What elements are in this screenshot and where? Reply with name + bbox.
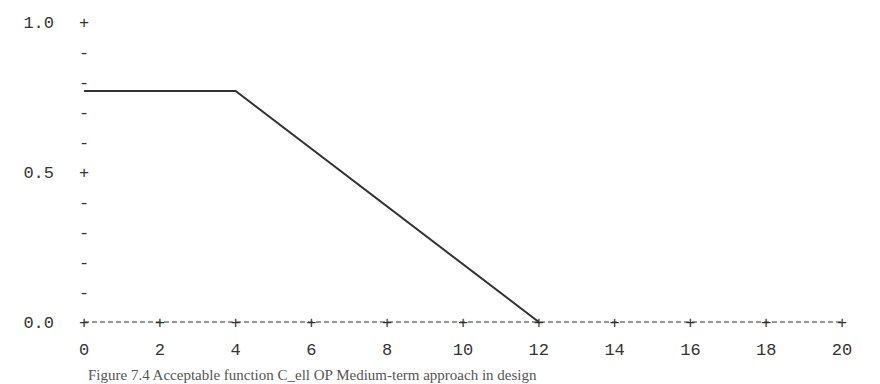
x-major-tick: + xyxy=(609,314,619,333)
x-tick-label: 4 xyxy=(230,341,240,360)
x-major-tick: + xyxy=(382,314,392,333)
x-tick-label: 8 xyxy=(382,341,392,360)
y-minor-tick: - xyxy=(79,254,89,273)
x-tick-label: 14 xyxy=(604,341,624,360)
x-axis: +0+2+4+6+8+10+12+14+16+18+20 xyxy=(79,314,852,360)
y-major-tick: + xyxy=(79,14,89,33)
y-axis: ----+----+0.00.51.0 xyxy=(23,14,89,333)
x-tick-label: 20 xyxy=(832,341,852,360)
y-minor-tick: - xyxy=(79,44,89,63)
x-tick-label: 18 xyxy=(756,341,776,360)
y-minor-tick: - xyxy=(79,224,89,243)
x-tick-label: 16 xyxy=(680,341,700,360)
y-tick-label: 0.0 xyxy=(23,314,54,333)
y-minor-tick: - xyxy=(79,284,89,303)
x-major-tick: + xyxy=(79,314,89,333)
x-tick-label: 2 xyxy=(155,341,165,360)
x-major-tick: + xyxy=(155,314,165,333)
y-minor-tick: - xyxy=(79,134,89,153)
x-tick-label: 0 xyxy=(79,341,89,360)
x-major-tick: + xyxy=(685,314,695,333)
x-tick-label: 12 xyxy=(529,341,549,360)
x-tick-label: 10 xyxy=(453,341,473,360)
y-tick-label: 0.5 xyxy=(23,164,54,183)
x-major-tick: + xyxy=(230,314,240,333)
x-major-tick: + xyxy=(306,314,316,333)
x-tick-label: 6 xyxy=(306,341,316,360)
figure-caption: Figure 7.4 Acceptable function C_ell OP … xyxy=(88,367,848,384)
x-major-tick: + xyxy=(837,314,847,333)
x-major-tick: + xyxy=(534,314,544,333)
x-major-tick: + xyxy=(761,314,771,333)
data-line xyxy=(84,91,539,322)
y-major-tick: + xyxy=(79,164,89,183)
y-minor-tick: - xyxy=(79,194,89,213)
y-tick-label: 1.0 xyxy=(23,14,54,33)
x-major-tick: + xyxy=(458,314,468,333)
y-minor-tick: - xyxy=(79,104,89,123)
